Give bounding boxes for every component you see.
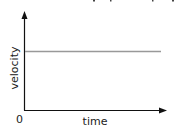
x-axis-label: time: [83, 116, 108, 127]
clipped-caption-fragments: [93, 0, 174, 2]
velocity-time-graph: velocity 0 time: [0, 0, 179, 130]
origin-label: 0: [16, 114, 23, 125]
chart-canvas: [0, 0, 179, 130]
x-axis-arrow-icon: [159, 108, 167, 114]
y-axis-label: velocity: [9, 47, 20, 90]
y-axis-arrow-icon: [22, 11, 28, 19]
